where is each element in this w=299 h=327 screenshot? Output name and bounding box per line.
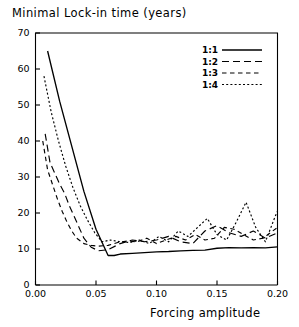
chart-figure: Minimal Lock-in time (years) 01020304050…	[0, 0, 299, 327]
x-tick-label: 0.00	[25, 288, 46, 299]
axis-ticks	[36, 33, 278, 285]
plot-frame	[36, 33, 278, 285]
data-series-group	[43, 51, 278, 255]
x-tick-label: 0.20	[267, 288, 288, 299]
y-tick-label: 60	[17, 63, 29, 74]
y-tick-label: 40	[17, 135, 29, 146]
series-line-1-3	[43, 141, 278, 246]
x-axis-label: Forcing amplitude	[150, 306, 260, 320]
legend-label-1-4: 1:4	[202, 80, 218, 90]
y-tick-label: 10	[17, 243, 29, 254]
series-line-1-4	[44, 76, 278, 243]
axis-frame	[36, 33, 278, 285]
y-tick-label: 70	[17, 27, 29, 38]
plot-area: 0102030405060700.000.050.100.150.20 1:11…	[0, 0, 299, 327]
y-tick-label: 20	[17, 207, 29, 218]
legend-label-1-1: 1:1	[202, 45, 218, 55]
y-tick-label: 30	[17, 171, 29, 182]
x-tick-label: 0.10	[146, 288, 167, 299]
series-line-1-1	[48, 51, 278, 255]
series-line-1-2	[45, 134, 277, 251]
chart-legend: 1:11:21:31:4	[202, 45, 262, 89]
legend-label-1-2: 1:2	[202, 57, 218, 67]
legend-label-1-3: 1:3	[202, 68, 218, 78]
y-tick-label: 50	[17, 99, 29, 110]
chart-title: Minimal Lock-in time (years)	[12, 6, 187, 20]
axis-tick-labels: 0102030405060700.000.050.100.150.20	[17, 27, 288, 299]
x-tick-label: 0.05	[85, 288, 106, 299]
x-tick-label: 0.15	[206, 288, 227, 299]
